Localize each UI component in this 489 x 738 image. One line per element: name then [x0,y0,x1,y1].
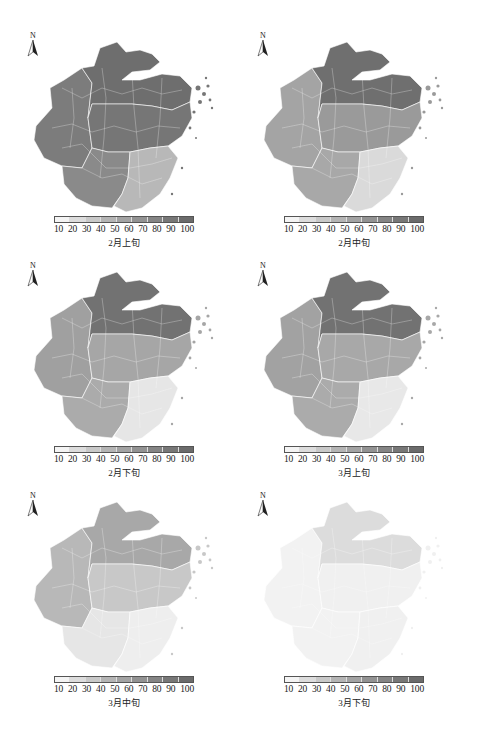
legend: 1020304050607080901003月下旬 [284,676,424,709]
legend-tick-label: 50 [340,224,349,235]
legend-tick-label: 40 [326,454,335,465]
legend-tick-label: 70 [368,684,377,695]
legend-tick-label: 80 [152,454,161,465]
legend: 1020304050607080901002月上旬 [54,216,194,249]
legend-swatch [300,447,315,452]
legend-swatch [409,217,423,222]
legend-swatch [117,447,132,452]
legend-tick-label: 40 [96,454,105,465]
legend-tick-label: 70 [138,224,147,235]
region-central [88,102,192,152]
legend-swatch [331,447,346,452]
legend-tick-label: 60 [354,224,363,235]
legend-color-bar [284,216,424,223]
region-central [88,562,192,612]
legend-swatch [409,447,423,452]
legend: 1020304050607080901002月中旬 [284,216,424,249]
legend-tick-label: 10 [54,224,63,235]
legend-tick-label: 60 [354,684,363,695]
region-west [264,68,322,168]
legend-swatch [179,677,193,682]
legend-tick-label: 10 [54,684,63,695]
north-arrow-icon: N [256,260,270,288]
legend-swatch [300,677,315,682]
legend-tick-label: 90 [396,454,405,465]
legend-tick-label: 100 [180,684,194,695]
legend-tick-label: 50 [110,224,119,235]
choropleth-map [252,258,452,448]
legend-tick-label: 70 [138,684,147,695]
legend-swatch [55,217,70,222]
legend-swatch [393,217,408,222]
legend-swatch [331,217,346,222]
legend-swatch [132,217,147,222]
region-west [34,68,92,168]
north-arrow-icon: N [26,30,40,58]
legend-swatch [148,447,163,452]
legend-tick-label: 80 [152,224,161,235]
region-west [34,298,92,398]
region-central [318,332,422,382]
panel-caption: 2月中旬 [284,236,424,249]
legend-tick-label: 80 [382,454,391,465]
legend-tick-label: 70 [368,224,377,235]
choropleth-map [22,488,222,678]
region-west [34,528,92,628]
map-panel: N1020304050607080901003月中旬 [22,488,222,713]
legend-tick-label: 50 [340,454,349,465]
legend-tick-label: 90 [166,224,175,235]
legend-tick-label: 90 [396,684,405,695]
map-panel: N1020304050607080901002月上旬 [22,28,222,253]
choropleth-map [22,258,222,448]
legend-swatch [285,677,300,682]
legend-swatch [331,677,346,682]
legend-tick-label: 90 [166,454,175,465]
legend-swatch [70,217,85,222]
legend-swatch [300,217,315,222]
legend-tick-label: 80 [382,684,391,695]
legend-tick-label: 50 [110,454,119,465]
legend-color-bar [284,676,424,683]
north-arrow-icon: N [26,490,40,518]
legend-tick-label: 40 [96,684,105,695]
svg-text:N: N [260,491,266,500]
legend-tick-label: 50 [340,684,349,695]
legend-swatch [117,677,132,682]
legend-tick-label: 30 [82,684,91,695]
legend-swatch [101,447,116,452]
panel-caption: 2月下旬 [54,466,194,479]
legend-tick-label: 20 [68,684,77,695]
legend-swatch [378,447,393,452]
region-west [264,298,322,398]
choropleth-map [252,28,452,218]
legend-tick-label: 100 [410,684,424,695]
legend-tick-label: 40 [326,224,335,235]
svg-text:N: N [260,31,266,40]
legend-tick-label: 70 [368,454,377,465]
legend-tick-label: 60 [354,454,363,465]
legend-tick-label: 30 [312,684,321,695]
legend-swatch [347,217,362,222]
legend-tick-label: 30 [82,224,91,235]
legend-tick-label: 50 [110,684,119,695]
legend-tick-label: 60 [124,224,133,235]
panel-caption: 3月中旬 [54,696,194,709]
legend-swatch [378,677,393,682]
north-arrow-icon: N [256,30,270,58]
legend-swatch [86,447,101,452]
legend-tick-label: 20 [68,224,77,235]
legend-swatch [163,447,178,452]
legend-tick-label: 10 [54,454,63,465]
legend-swatch [378,217,393,222]
panel-caption: 3月上旬 [284,466,424,479]
legend: 1020304050607080901003月上旬 [284,446,424,479]
panel-caption: 2月上旬 [54,236,194,249]
legend-ticks: 102030405060708090100 [284,454,424,465]
legend-swatch [179,447,193,452]
region-central [88,332,192,382]
north-arrow-icon: N [256,490,270,518]
legend-color-bar [54,446,194,453]
legend-swatch [163,217,178,222]
legend-tick-label: 30 [312,454,321,465]
choropleth-map [22,28,222,218]
